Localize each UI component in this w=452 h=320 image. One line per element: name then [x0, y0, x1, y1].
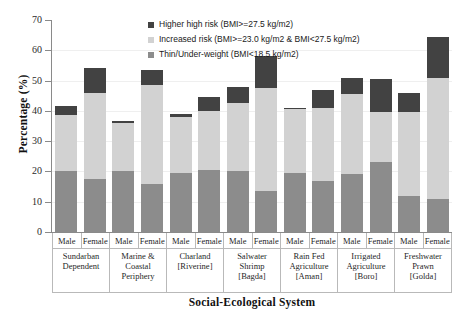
x-axis-sex-label: Female	[424, 233, 452, 249]
x-axis-sex-label: Male	[52, 233, 82, 249]
bar-segment	[227, 103, 249, 171]
x-axis-group-label: Charland[Riverine]	[167, 249, 224, 293]
legend-item: Higher high risk (BMI>=27.5 kg/m2)	[148, 18, 360, 31]
legend-swatch-icon	[148, 37, 154, 43]
bar-segment	[370, 79, 392, 112]
bar-segment	[427, 37, 449, 78]
y-axis-tick	[45, 141, 51, 142]
bar-segment	[170, 173, 192, 232]
bar-segment	[284, 109, 306, 173]
bar-segment	[84, 179, 106, 232]
chart-legend: Higher high risk (BMI>=27.5 kg/m2)Increa…	[148, 18, 360, 63]
bar-female-1	[141, 70, 163, 232]
y-axis-tick-label: 0	[0, 227, 42, 237]
bar-female-5	[370, 79, 392, 232]
legend-label: Thin/Under-weight (BMI<18.5 kg/m2)	[159, 50, 299, 59]
x-axis-group-label: SundarbanDependent	[52, 249, 110, 293]
bar-female-2	[198, 97, 220, 232]
bar-segment	[284, 173, 306, 232]
bar-female-3	[255, 56, 277, 232]
stacked-bar-chart: 706050403020100 Percentage (%) Higher hi…	[0, 0, 452, 320]
bar-segment	[112, 123, 134, 171]
bar-segment	[112, 121, 134, 123]
bar-segment	[112, 171, 134, 232]
bar-male-2	[170, 114, 192, 232]
bar-segment	[198, 170, 220, 232]
x-axis-group-label: FreshwaterPrawn[Golda]	[395, 249, 452, 293]
y-axis-tick	[45, 111, 51, 112]
bar-segment	[312, 108, 334, 181]
bar-male-4	[284, 108, 306, 232]
bar-segment	[398, 112, 420, 195]
bar-male-1	[112, 121, 134, 232]
bar-segment	[55, 115, 77, 171]
x-axis-sex-row: MaleFemaleMaleFemaleMaleFemaleMaleFemale…	[52, 233, 452, 249]
bar-segment	[227, 87, 249, 104]
bar-male-6	[398, 93, 420, 232]
y-axis-tick	[45, 202, 51, 203]
bar-segment	[227, 171, 249, 232]
x-axis-sex-label: Female	[253, 233, 282, 249]
bar-female-4	[312, 90, 334, 232]
y-axis-tick	[45, 20, 51, 21]
bar-segment	[198, 111, 220, 170]
x-axis-title: Social-Ecological System	[52, 296, 452, 308]
x-axis-sex-label: Male	[224, 233, 253, 249]
bar-segment	[427, 199, 449, 232]
y-axis-tick	[45, 50, 51, 51]
bar-segment	[141, 70, 163, 85]
bar-female-0	[84, 68, 106, 232]
bar-segment	[341, 174, 363, 232]
bar-segment	[170, 114, 192, 117]
x-axis-sex-label: Male	[395, 233, 424, 249]
bar-segment	[284, 108, 306, 110]
bar-female-6	[427, 37, 449, 232]
y-axis-tick	[45, 81, 51, 82]
legend-swatch-icon	[148, 22, 154, 28]
x-axis-table: MaleFemaleMaleFemaleMaleFemaleMaleFemale…	[52, 233, 452, 293]
bar-segment	[341, 94, 363, 174]
bar-male-5	[341, 78, 363, 232]
x-axis-group-label: IrrigatedAgriculture[Boro]	[338, 249, 395, 293]
bar-segment	[84, 68, 106, 92]
x-axis-group-label: SalwaterShrimp[Bagda]	[224, 249, 281, 293]
legend-swatch-icon	[148, 52, 154, 58]
bar-segment	[170, 117, 192, 173]
bar-segment	[398, 196, 420, 232]
x-axis-sex-label: Male	[338, 233, 367, 249]
x-axis-sex-label: Female	[367, 233, 396, 249]
bar-segment	[341, 78, 363, 95]
legend-item: Increased risk (BMI>=23.0 kg/m2 & BMI<27…	[148, 33, 360, 46]
bar-segment	[427, 78, 449, 199]
y-axis-tick-label: 10	[0, 197, 42, 207]
x-axis-sex-label: Male	[167, 233, 196, 249]
legend-label: Higher high risk (BMI>=27.5 kg/m2)	[159, 20, 293, 29]
y-axis-title: Percentage (%)	[17, 44, 29, 184]
y-axis-tick	[45, 171, 51, 172]
x-axis-group-label: Marine &CoastalPeriphery	[110, 249, 167, 293]
bar-segment	[255, 88, 277, 191]
bar-segment	[198, 97, 220, 111]
y-axis-tick-label: 70	[0, 15, 42, 25]
bar-segment	[370, 112, 392, 162]
bar-male-0	[55, 106, 77, 232]
bar-segment	[84, 93, 106, 179]
bar-segment	[312, 181, 334, 232]
x-axis-sex-label: Male	[110, 233, 139, 249]
bar-male-3	[227, 87, 249, 232]
bar-segment	[55, 171, 77, 232]
bar-segment	[255, 191, 277, 232]
x-axis-group-label: Rain FedAgriculture[Aman]	[281, 249, 338, 293]
bar-segment	[312, 90, 334, 108]
x-axis-sex-label: Female	[310, 233, 339, 249]
x-axis-group-row: SundarbanDependentMarine &CoastalPeriphe…	[52, 249, 452, 293]
bar-segment	[370, 162, 392, 232]
legend-item: Thin/Under-weight (BMI<18.5 kg/m2)	[148, 48, 360, 61]
legend-label: Increased risk (BMI>=23.0 kg/m2 & BMI<27…	[159, 35, 360, 44]
bar-segment	[398, 93, 420, 113]
bar-segment	[141, 85, 163, 183]
x-axis-sex-label: Female	[139, 233, 168, 249]
x-axis-sex-label: Female	[82, 233, 111, 249]
x-axis-sex-label: Female	[196, 233, 225, 249]
bar-segment	[55, 106, 77, 115]
